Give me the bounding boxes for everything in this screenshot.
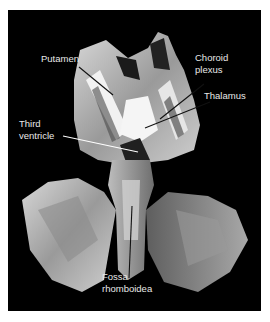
- label-fossa-rhomboidea-line2: rhomboidea: [102, 283, 152, 294]
- label-choroid-plexus-line2: plexus: [195, 64, 222, 75]
- label-thalamus: Thalamus: [204, 90, 246, 101]
- label-fossa-rhomboidea-line1: Fossa: [102, 271, 128, 282]
- cerebrum-region: [74, 32, 200, 165]
- specimen-photo-frame: Putamen Choroid plexus Thalamus Third ve…: [8, 10, 261, 311]
- label-third-ventricle-line1: Third: [19, 118, 41, 129]
- cerebellum-right: [146, 192, 248, 292]
- label-choroid-plexus-line1: Choroid: [195, 52, 228, 63]
- label-putamen: Putamen: [41, 53, 79, 64]
- label-third-ventricle-line2: ventricle: [19, 130, 54, 141]
